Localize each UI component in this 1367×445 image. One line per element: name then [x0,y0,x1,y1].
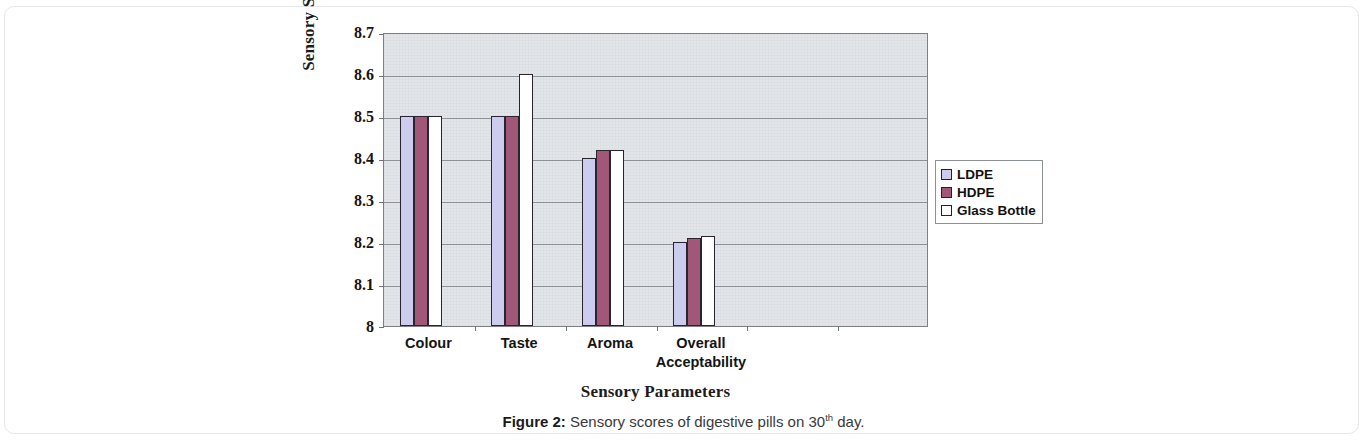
bar-chart: Sensory Scores 88.18.28.38.48.58.68.7 Co… [0,0,1367,400]
y-axis-title: Sensory Scores [299,0,319,100]
bar [610,150,624,326]
y-axis-tick-mark [379,327,384,328]
y-axis-tick-label: 8 [322,318,374,336]
bar-group [384,34,475,326]
bar [582,158,596,326]
bar [491,116,505,326]
figure-caption-label: Figure 2: [503,413,566,430]
bar-group [475,34,566,326]
chart-legend: LDPEHDPEGlass Bottle [935,160,1043,224]
x-axis-title: Sensory Parameters [383,382,928,402]
y-axis-tick-labels: 88.18.28.38.48.58.68.7 [322,33,374,327]
bar [505,116,519,326]
figure-caption-text-before: Sensory scores of digestive pills on 30 [566,413,825,430]
bar [701,236,715,326]
figure-caption-superscript: th [825,412,833,423]
y-axis-tick-label: 8.1 [322,276,374,294]
legend-swatch-icon [941,187,952,198]
y-axis-tick-label: 8.4 [322,150,374,168]
x-axis-tick-label-line: Acceptability [641,353,761,372]
x-axis-tick-label: OverallAcceptability [641,334,761,372]
bar [400,116,414,326]
figure-container: Sensory Scores 88.18.28.38.48.58.68.7 Co… [0,0,1367,445]
legend-swatch-icon [941,169,952,180]
y-axis-tick-label: 8.5 [322,108,374,126]
figure-caption: Figure 2: Sensory scores of digestive pi… [0,412,1367,430]
y-axis-tick-label: 8.3 [322,192,374,210]
bar-group [566,34,657,326]
legend-item-label: Glass Bottle [957,203,1036,218]
figure-caption-text-after: day. [833,413,864,430]
legend-item[interactable]: Glass Bottle [941,201,1036,219]
legend-item[interactable]: HDPE [941,183,1036,201]
bar [596,150,610,326]
x-axis-tick-mark [657,326,658,331]
bar [414,116,428,326]
y-axis-tick-label: 8.7 [322,24,374,42]
bar-group [657,34,748,326]
bar [519,74,533,326]
bar [673,242,687,326]
plot-area [383,33,928,327]
bar [687,238,701,326]
y-axis-tick-label: 8.6 [322,66,374,84]
legend-item-label: HDPE [957,185,995,200]
x-axis-tick-mark [566,326,567,331]
x-axis-tick-mark [747,326,748,331]
x-axis-tick-mark [475,326,476,331]
x-axis-tick-labels: ColourTasteAromaOverallAcceptability [383,334,928,380]
legend-swatch-icon [941,205,952,216]
y-axis-tick-label: 8.2 [322,234,374,252]
legend-item[interactable]: LDPE [941,165,1036,183]
x-axis-tick-label-line: Overall [641,334,761,353]
bar [428,116,442,326]
legend-item-label: LDPE [957,167,993,182]
x-axis-tick-mark [838,326,839,331]
